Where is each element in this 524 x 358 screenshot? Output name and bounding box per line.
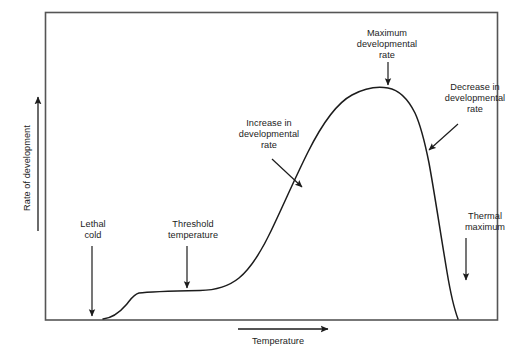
annotation-increase-in-developmental-rate: Increase in developmental rate (224, 118, 314, 152)
annotation-lethal-cold: Lethal cold (62, 219, 124, 241)
annotation-threshold-temperature: Threshold temperature (148, 219, 238, 241)
chart-canvas (0, 0, 524, 358)
annotation-decrease-in-developmental-rate: Decrease in developmental rate (432, 82, 518, 116)
chart-figure: Rate of development Temperature Lethal c… (0, 0, 524, 358)
x-axis-label: Temperature (218, 336, 338, 346)
annotation-thermal-maximum: Thermal maximum (452, 211, 518, 233)
y-axis-label: Rate of development (22, 108, 32, 228)
annotation-maximum-developmental-rate: Maximum developmental rate (337, 28, 437, 62)
